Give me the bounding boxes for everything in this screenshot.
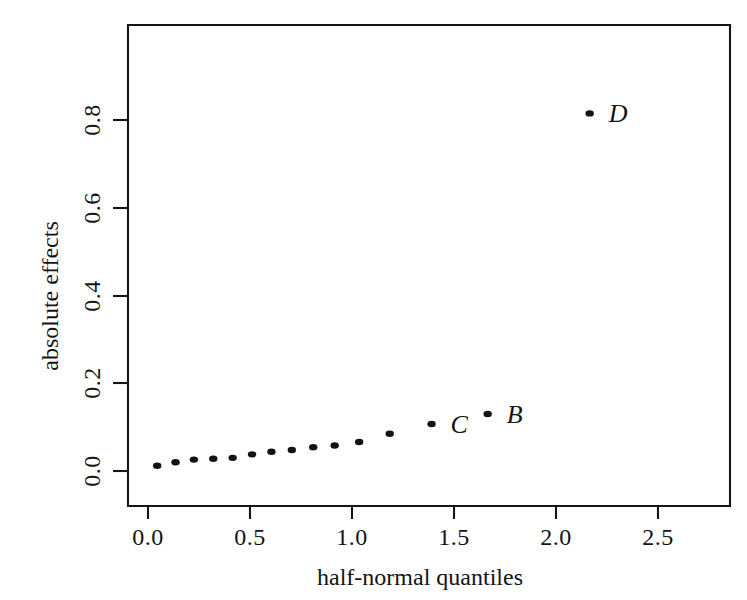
- data-point: [427, 421, 435, 427]
- x-tick-label-0: 0.0: [132, 524, 164, 550]
- frame-rect: [128, 25, 730, 506]
- data-point: [330, 442, 338, 448]
- data-points-layer: [153, 110, 594, 469]
- data-point: [483, 411, 491, 417]
- data-point: [248, 451, 256, 457]
- x-tick-label-5: 2.5: [642, 524, 674, 550]
- point-annotations-layer: DCB: [451, 99, 628, 439]
- point-label-c: C: [451, 410, 469, 439]
- x-tick-label-1: 0.5: [234, 524, 266, 550]
- x-axis-ticks: [148, 506, 658, 519]
- x-tick-label-2: 1.0: [336, 524, 368, 550]
- data-point: [585, 110, 593, 116]
- data-point: [309, 444, 317, 450]
- data-point: [267, 448, 275, 454]
- data-point: [228, 455, 236, 461]
- y-axis-title: absolute effects: [37, 221, 63, 371]
- point-label-d: D: [608, 99, 628, 128]
- data-point: [386, 431, 394, 437]
- data-point: [209, 456, 217, 462]
- y-tick-label-3: 0.6: [79, 192, 105, 224]
- data-point: [288, 447, 296, 453]
- data-point: [355, 439, 363, 445]
- plot-frame: [128, 25, 730, 506]
- x-axis-title: half-normal quantiles: [317, 564, 523, 590]
- y-tick-label-4: 0.8: [79, 104, 105, 136]
- data-point: [171, 459, 179, 465]
- data-point: [190, 456, 198, 462]
- chart-canvas: 0.0 0.2 0.4 0.6 0.8 absolute effects 0.0…: [0, 0, 747, 600]
- y-axis-tick-labels: 0.0 0.2 0.4 0.6 0.8: [79, 104, 105, 487]
- point-label-b: B: [507, 400, 523, 429]
- y-axis-ticks: [113, 120, 128, 471]
- x-axis-tick-labels: 0.0 0.5 1.0 1.5 2.0 2.5: [132, 524, 674, 550]
- x-tick-label-4: 2.0: [540, 524, 572, 550]
- y-tick-label-2: 0.4: [79, 280, 105, 312]
- x-tick-label-3: 1.5: [438, 524, 470, 550]
- y-tick-label-1: 0.2: [79, 367, 105, 399]
- y-tick-label-0: 0.0: [79, 455, 105, 487]
- half-normal-plot-figure: 0.0 0.2 0.4 0.6 0.8 absolute effects 0.0…: [0, 0, 747, 600]
- data-point: [153, 463, 161, 469]
